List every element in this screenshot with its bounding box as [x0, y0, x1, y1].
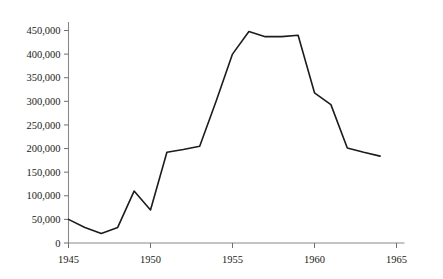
series-line-1: [69, 31, 381, 233]
y-tick-label: 250,000: [26, 120, 60, 131]
y-tick-label: 400,000: [26, 49, 60, 60]
x-tick-label: 1960: [304, 254, 325, 265]
x-tick-label: 1945: [58, 254, 79, 265]
y-tick-label: 50,000: [32, 214, 61, 225]
y-tick-label: 150,000: [26, 167, 60, 178]
line-chart: 050,000100,000150,000200,000250,000300,0…: [0, 0, 443, 279]
y-tick-label: 200,000: [26, 143, 60, 154]
data-series: [69, 31, 381, 233]
y-tick-label: 0: [55, 238, 60, 249]
x-tick-label: 1950: [140, 254, 161, 265]
y-axis: 050,000100,000150,000200,000250,000300,0…: [26, 22, 68, 249]
chart-canvas: 050,000100,000150,000200,000250,000300,0…: [0, 0, 443, 279]
x-axis: 19451950195519601965: [58, 243, 407, 265]
y-tick-label: 350,000: [26, 72, 60, 83]
y-tick-label: 100,000: [26, 190, 60, 201]
x-tick-label: 1955: [222, 254, 243, 265]
y-tick-label: 300,000: [26, 96, 60, 107]
y-tick-label: 450,000: [26, 25, 60, 36]
x-tick-label: 1965: [386, 254, 407, 265]
